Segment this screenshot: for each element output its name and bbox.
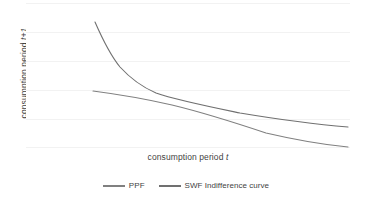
chart-container: consumption period t+1 consumption perio… (0, 0, 372, 202)
x-axis-title-variable: t (226, 152, 228, 162)
chart-legend: PPF SWF Indifference curve (0, 178, 372, 194)
legend-label: SWF Indifference curve (185, 181, 270, 191)
x-axis-title-text: consumption period (148, 152, 226, 162)
legend-swatch-icon (103, 185, 125, 187)
plot-area (26, 0, 350, 150)
plot-svg (26, 0, 350, 150)
legend-label: PPF (129, 181, 145, 191)
x-axis-title: consumption period t (26, 150, 350, 164)
legend-item-swf-indifference-curve[interactable]: SWF Indifference curve (159, 181, 270, 191)
legend-item-ppf[interactable]: PPF (103, 181, 145, 191)
plot-background (26, 0, 350, 150)
legend-swatch-icon (159, 185, 181, 187)
